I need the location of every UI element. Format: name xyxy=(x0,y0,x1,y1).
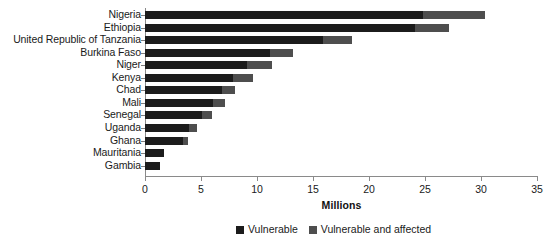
category-label: Gambia xyxy=(0,160,141,171)
category-label: Kenya xyxy=(0,72,141,83)
legend-label: Vulnerable xyxy=(248,224,298,235)
category-label: Niger xyxy=(0,59,141,70)
bar-segment-vulnerable xyxy=(145,36,323,44)
bar-segment-vulnerable-and-affected xyxy=(323,36,352,44)
bar-segment-vulnerable-and-affected xyxy=(233,74,252,82)
category-axis-labels: NigeriaEthiopiaUnited Republic of Tanzan… xyxy=(0,8,141,175)
bar-segment-vulnerable-and-affected xyxy=(222,86,234,94)
category-label: United Republic of Tanzania xyxy=(0,34,141,45)
x-axis-tick xyxy=(145,177,146,181)
legend-swatch-icon xyxy=(236,226,244,234)
bar-segment-vulnerable xyxy=(145,86,222,94)
legend-item: Vulnerable xyxy=(236,224,298,235)
x-axis-line xyxy=(145,176,538,177)
category-label: Chad xyxy=(0,84,141,95)
bar-segment-vulnerable xyxy=(145,74,233,82)
x-axis-tick xyxy=(425,177,426,181)
bar-segment-vulnerable xyxy=(145,124,189,132)
bar-segment-vulnerable xyxy=(145,24,415,32)
x-axis-tick xyxy=(369,177,370,181)
chart-legend: VulnerableVulnerable and affected xyxy=(236,224,431,235)
bar-segment-vulnerable-and-affected xyxy=(247,61,272,69)
category-label: Mali xyxy=(0,97,141,108)
bar-segment-vulnerable-and-affected xyxy=(423,11,486,19)
category-label: Burkina Faso xyxy=(0,47,141,58)
x-axis-tick xyxy=(201,177,202,181)
x-axis-tick xyxy=(257,177,258,181)
bar-segment-vulnerable-and-affected xyxy=(202,111,212,119)
x-axis-tick-label: 15 xyxy=(298,183,328,195)
bar-segment-vulnerable-and-affected xyxy=(189,124,197,132)
legend-label: Vulnerable and affected xyxy=(321,224,431,235)
category-label: Ethiopia xyxy=(0,22,141,33)
x-axis-title: Millions xyxy=(145,199,538,211)
bar-segment-vulnerable-and-affected xyxy=(183,137,187,145)
x-axis-tick-label: 5 xyxy=(186,183,216,195)
bar-segment-vulnerable xyxy=(145,149,164,157)
category-label: Mauritania xyxy=(0,147,141,158)
category-label: Ghana xyxy=(0,135,141,146)
bar-segment-vulnerable xyxy=(145,99,213,107)
legend-item: Vulnerable and affected xyxy=(309,224,431,235)
x-axis-tick-label: 25 xyxy=(410,183,440,195)
bar-segment-vulnerable xyxy=(145,11,423,19)
bar-segment-vulnerable xyxy=(145,61,247,69)
legend-swatch-icon xyxy=(309,226,317,234)
bar-segment-vulnerable-and-affected xyxy=(415,24,449,32)
plot-area xyxy=(145,8,537,175)
category-label: Nigeria xyxy=(0,9,141,20)
bar-segment-vulnerable xyxy=(145,137,183,145)
bar-segment-vulnerable xyxy=(145,162,160,170)
x-axis-tick xyxy=(481,177,482,181)
bar-segment-vulnerable-and-affected xyxy=(213,99,224,107)
x-axis-tick-label: 0 xyxy=(130,183,160,195)
x-axis-tick xyxy=(537,177,538,181)
x-axis-tick-label: 35 xyxy=(522,183,551,195)
category-label: Senegal xyxy=(0,109,141,120)
bar-segment-vulnerable xyxy=(145,111,202,119)
x-axis-tick xyxy=(313,177,314,181)
bar-chart: NigeriaEthiopiaUnited Republic of Tanzan… xyxy=(0,0,551,245)
x-axis-tick-label: 10 xyxy=(242,183,272,195)
x-axis-tick-label: 30 xyxy=(466,183,496,195)
bar-segment-vulnerable-and-affected xyxy=(270,49,292,57)
x-axis-tick-label: 20 xyxy=(354,183,384,195)
category-label: Uganda xyxy=(0,122,141,133)
bar-segment-vulnerable xyxy=(145,49,270,57)
